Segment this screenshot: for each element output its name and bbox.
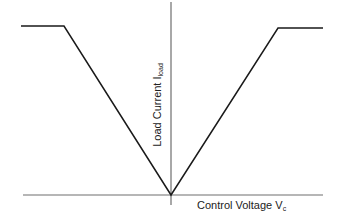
x-axis-label: Control Voltage Vc [197, 199, 286, 212]
y-axis-label-main: Load Current I [151, 76, 163, 146]
load-current-curve [21, 26, 323, 195]
y-axis-label-subscript: load [157, 63, 164, 76]
y-axis-label: Load Current Iload [151, 63, 164, 147]
chart-canvas [0, 0, 344, 223]
x-axis-label-subscript: c [283, 205, 287, 212]
x-axis-label-main: Control Voltage V [197, 199, 283, 211]
